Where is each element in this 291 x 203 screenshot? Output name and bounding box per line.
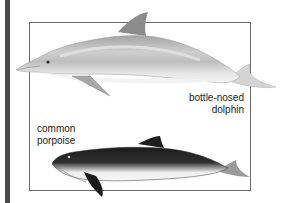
dolphin-label: bottle-nosed dolphin [189, 92, 244, 116]
species-illustration [0, 0, 291, 203]
porpoise-label: common porpoise [37, 123, 75, 147]
dolphin-drawing [16, 12, 276, 96]
porpoise-dorsal-fin [138, 136, 164, 148]
dolphin-eye [46, 60, 49, 63]
dolphin-label-line-2: dolphin [189, 104, 244, 116]
porpoise-label-line-1: common [37, 123, 75, 135]
porpoise-eye [68, 156, 71, 159]
porpoise-drawing [52, 136, 250, 197]
porpoise-label-line-2: porpoise [37, 135, 75, 147]
dolphin-dorsal-fin [118, 12, 148, 36]
dolphin-body [16, 36, 240, 83]
porpoise-body [52, 147, 228, 181]
dolphin-label-line-1: bottle-nosed [189, 92, 244, 104]
illustration-page: bottle-nosed dolphin common porpoise [0, 0, 291, 203]
